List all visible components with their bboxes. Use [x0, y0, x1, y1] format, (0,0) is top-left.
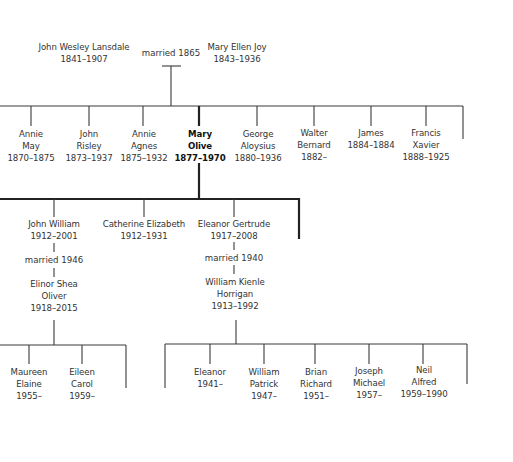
person-francis-xavier: Francis Xavier 1888–1925: [402, 127, 449, 164]
person-dates: 1873–1937: [65, 152, 112, 164]
person-first-name: Mary: [174, 128, 225, 140]
person-first-name: William Kienle: [205, 276, 264, 288]
person-john-risley: John Risley 1873–1937: [65, 128, 112, 165]
person-middle-name: May: [7, 140, 54, 152]
person-dates: 1913–1992: [205, 300, 264, 312]
person-middle-name: Bernard: [297, 139, 330, 151]
person-eleanor-1941: Eleanor 1941–: [194, 366, 226, 390]
person-dates: 1941–: [194, 378, 226, 390]
person-first-name: James: [347, 127, 394, 139]
person-annie-may: Annie May 1870–1875: [7, 128, 54, 165]
person-dates: 1884–1884: [347, 139, 394, 151]
person-mary-olive: Mary Olive 1877–1970: [174, 128, 225, 165]
person-john-wesley-lansdale: John Wesley Lansdale 1841–1907: [38, 41, 129, 65]
person-brian-richard: Brian Richard 1951–: [300, 366, 332, 403]
person-dates: 1880–1936: [234, 152, 281, 164]
person-dates: 1947–: [249, 390, 280, 402]
person-first-name: Joseph: [353, 365, 385, 377]
person-dates: 1951–: [300, 390, 332, 402]
person-first-name: Walter: [297, 127, 330, 139]
person-william-patrick: William Patrick 1947–: [249, 366, 280, 403]
person-dates: 1959–: [69, 390, 95, 402]
person-middle-name: Carol: [69, 378, 95, 390]
person-middle-name: Xavier: [402, 139, 449, 151]
person-william-kienle-horrigan: William Kienle Horrigan 1913–1992: [205, 276, 264, 313]
person-first-name: Annie: [120, 128, 167, 140]
person-dates: 1918–2015: [30, 302, 78, 314]
person-name: Eleanor Gertrude: [198, 218, 270, 230]
person-dates: 1959–1990: [400, 388, 447, 400]
marriage-label-john-william: married 1946: [25, 254, 83, 266]
person-eleanor-gertrude: Eleanor Gertrude 1917–2008: [198, 218, 270, 242]
person-first-name: Eileen: [69, 366, 95, 378]
person-dates: 1888–1925: [402, 151, 449, 163]
person-dates: 1882–: [297, 151, 330, 163]
person-first-name: Annie: [7, 128, 54, 140]
person-first-name: William: [249, 366, 280, 378]
person-dates: 1912–2001: [28, 230, 80, 242]
person-first-name: Brian: [300, 366, 332, 378]
person-first-name: Maureen: [11, 366, 48, 378]
person-middle-name: Aloysius: [234, 140, 281, 152]
person-joseph-michael: Joseph Michael 1957–: [353, 365, 385, 402]
person-elinor-shea-oliver: Elinor Shea Oliver 1918–2015: [30, 278, 78, 315]
person-dates: 1841–1907: [38, 53, 129, 65]
person-annie-agnes: Annie Agnes 1875–1932: [120, 128, 167, 165]
person-name: Catherine Elizabeth: [103, 218, 185, 230]
person-mary-ellen-joy: Mary Ellen Joy 1843–1936: [207, 41, 266, 65]
person-name: John William: [28, 218, 80, 230]
person-middle-name: Alfred: [400, 376, 447, 388]
person-middle-name: Richard: [300, 378, 332, 390]
person-john-william: John William 1912–2001: [28, 218, 80, 242]
person-neil-alfred: Neil Alfred 1959–1990: [400, 364, 447, 401]
person-last-name: Horrigan: [205, 288, 264, 300]
person-dates: 1870–1875: [7, 152, 54, 164]
person-name: John Wesley Lansdale: [38, 41, 129, 53]
person-dates: 1957–: [353, 389, 385, 401]
person-maureen-elaine: Maureen Elaine 1955–: [11, 366, 48, 403]
person-first-name: John: [65, 128, 112, 140]
person-dates: 1843–1936: [207, 53, 266, 65]
person-catherine-elizabeth: Catherine Elizabeth 1912–1931: [103, 218, 185, 242]
person-dates: 1917–2008: [198, 230, 270, 242]
person-first-name: Neil: [400, 364, 447, 376]
person-first-name: Francis: [402, 127, 449, 139]
person-middle-name: Patrick: [249, 378, 280, 390]
person-middle-name: Agnes: [120, 140, 167, 152]
person-walter-bernard: Walter Bernard 1882–: [297, 127, 330, 164]
person-dates: 1912–1931: [103, 230, 185, 242]
person-dates: 1877–1970: [174, 152, 225, 164]
person-middle-name: Risley: [65, 140, 112, 152]
person-dates: 1875–1932: [120, 152, 167, 164]
person-george-aloysius: George Aloysius 1880–1936: [234, 128, 281, 165]
person-name: Mary Ellen Joy: [207, 41, 266, 53]
person-first-name: Elinor Shea: [30, 278, 78, 290]
person-first-name: Eleanor: [194, 366, 226, 378]
person-james: James 1884–1884: [347, 127, 394, 151]
marriage-label-gen1: married 1865: [142, 47, 200, 59]
person-last-name: Oliver: [30, 290, 78, 302]
marriage-label-eleanor-gertrude: married 1940: [205, 252, 263, 264]
person-middle-name: Elaine: [11, 378, 48, 390]
person-eileen-carol: Eileen Carol 1959–: [69, 366, 95, 403]
person-middle-name: Olive: [174, 140, 225, 152]
person-dates: 1955–: [11, 390, 48, 402]
person-first-name: George: [234, 128, 281, 140]
person-middle-name: Michael: [353, 377, 385, 389]
